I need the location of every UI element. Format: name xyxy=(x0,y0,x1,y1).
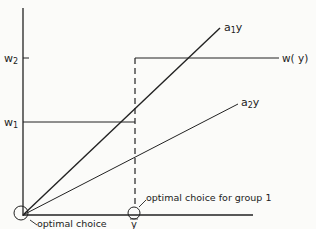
origin-pointer xyxy=(30,220,37,225)
wy-label: w( y) xyxy=(282,52,308,64)
w2-label: w2 xyxy=(4,52,18,66)
origin-note-line1: optimal choice xyxy=(37,218,107,229)
ybar-circle xyxy=(128,207,140,219)
a2y-label: a2y xyxy=(241,96,260,110)
w1-label: w1 xyxy=(4,116,18,130)
a1y-label: a1y xyxy=(224,21,243,35)
ybar-note: optimal choice for group 1 xyxy=(146,192,271,203)
wage-schedule-diagram: w2 w1 w( y) a1y a2y optimal choice for g… xyxy=(0,0,316,229)
ybar-label: y xyxy=(131,219,137,229)
diagram-svg: w2 w1 w( y) a1y a2y optimal choice for g… xyxy=(0,0,316,229)
ybar-pointer xyxy=(139,200,146,207)
